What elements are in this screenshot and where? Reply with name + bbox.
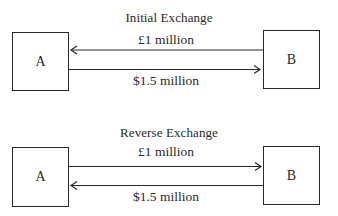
- party-b-label: B: [287, 168, 296, 184]
- initial-dollars-label: $1.5 million: [69, 73, 263, 89]
- party-b-box-reverse: B: [263, 146, 320, 205]
- initial-pounds-label: £1 million: [69, 32, 263, 48]
- party-b-label: B: [287, 52, 296, 68]
- reverse-dollars-label: $1.5 million: [69, 189, 263, 205]
- party-a-box-reverse: A: [12, 147, 69, 207]
- initial-exchange-title: Initial Exchange: [0, 10, 338, 26]
- party-a-label: A: [35, 54, 45, 70]
- party-a-box-initial: A: [12, 32, 69, 91]
- reverse-exchange-title: Reverse Exchange: [0, 125, 338, 141]
- reverse-pounds-label: £1 million: [69, 144, 263, 160]
- party-b-box-initial: B: [263, 30, 320, 89]
- party-a-label: A: [35, 169, 45, 185]
